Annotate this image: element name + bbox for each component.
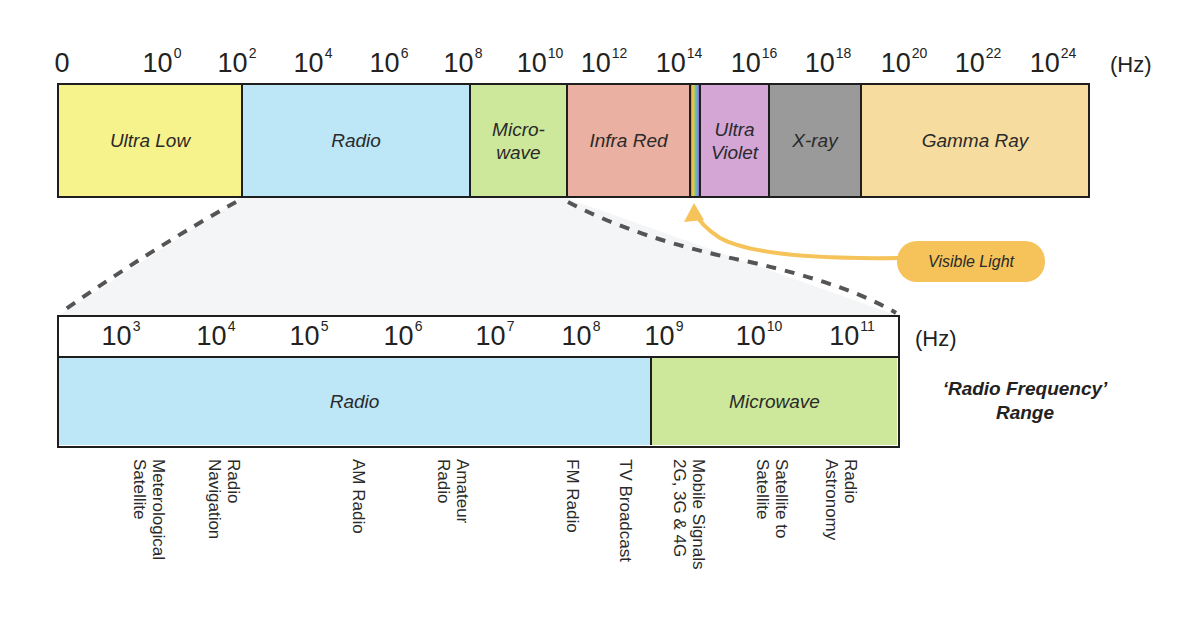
- top-unit-label: (Hz): [1110, 52, 1152, 78]
- band-label: Radio: [330, 390, 380, 413]
- top-tick: 1010: [517, 48, 564, 79]
- band-ultra-violet: Ultra Violet: [701, 85, 770, 196]
- rf-unit-label: (Hz): [915, 326, 957, 352]
- app-mobile-signals: Mobile Signals 2G, 3G & 4G: [670, 459, 708, 570]
- visible-light-callout: Visible Light: [897, 241, 1045, 282]
- band-label: Micro- wave: [492, 118, 545, 164]
- top-tick: 0: [54, 48, 69, 79]
- band-infra-red: Infra Red: [568, 85, 691, 196]
- band-label: Gamma Ray: [922, 129, 1029, 152]
- rf-tick: 107: [476, 321, 515, 352]
- rf-range-caption: ‘Radio Frequency’ Range: [925, 377, 1125, 425]
- top-tick: 1024: [1030, 48, 1077, 79]
- rf-tick: 1011: [829, 321, 875, 352]
- top-tick: 106: [370, 48, 409, 79]
- band-x-ray: X-ray: [770, 85, 862, 196]
- spectrum-bar: Ultra Low Radio Micro- wave Infra Red Ul…: [57, 83, 1090, 198]
- band-label: X-ray: [792, 129, 837, 152]
- rf-band-radio: Radio: [59, 358, 652, 445]
- app-amateur-radio: Amateur Radio: [434, 459, 472, 523]
- band-label: Microwave: [729, 390, 820, 413]
- rf-band-row: Radio Microwave: [59, 358, 898, 445]
- band-label: Ultra Low: [110, 129, 190, 152]
- top-tick: 1018: [805, 48, 852, 79]
- rf-tick: 105: [290, 321, 329, 352]
- band-label: Ultra Violet: [711, 118, 758, 164]
- rf-tick: 104: [197, 321, 236, 352]
- rf-zoom-bar: 103 104 105 106 107 108 109 1010 1011 Ra…: [57, 315, 900, 448]
- caption-line: ‘Radio Frequency’: [925, 377, 1125, 401]
- top-tick: 1016: [731, 48, 778, 79]
- rf-tick: 103: [102, 321, 141, 352]
- rf-scale-row: 103 104 105 106 107 108 109 1010 1011: [59, 317, 898, 358]
- top-tick: 1022: [955, 48, 1002, 79]
- app-fm-radio: FM Radio: [563, 459, 582, 533]
- app-radio-navigation: Radio Navigation: [205, 459, 243, 539]
- band-visible-light: [691, 85, 701, 196]
- top-tick: 104: [294, 48, 333, 79]
- band-label: Infra Red: [589, 129, 667, 152]
- app-meteorological-satellite: Meterological Satellite: [130, 459, 168, 560]
- top-tick: 1014: [656, 48, 703, 79]
- band-microwave: Micro- wave: [471, 85, 568, 196]
- app-am-radio: AM Radio: [349, 459, 368, 534]
- band-ultra-low: Ultra Low: [59, 85, 243, 196]
- app-radio-astronomy: Radio Astronomy: [822, 459, 860, 540]
- top-tick: 1020: [881, 48, 928, 79]
- top-tick: 102: [218, 48, 257, 79]
- top-tick: 100: [143, 48, 182, 79]
- band-label: Radio: [331, 129, 381, 152]
- band-radio: Radio: [243, 85, 471, 196]
- app-satellite-to-satellite: Satellite to Satellite: [753, 459, 791, 538]
- rf-tick: 108: [562, 321, 601, 352]
- app-tv-broadcast: TV Broadcast: [616, 459, 635, 562]
- band-gamma-ray: Gamma Ray: [862, 85, 1088, 196]
- callout-label: Visible Light: [928, 253, 1014, 271]
- rf-tick: 109: [645, 321, 684, 352]
- rf-band-microwave: Microwave: [652, 358, 897, 445]
- rf-tick: 1010: [736, 321, 783, 352]
- rf-tick: 106: [384, 321, 423, 352]
- top-tick: 1012: [581, 48, 628, 79]
- caption-line: Range: [925, 401, 1125, 425]
- top-tick: 108: [444, 48, 483, 79]
